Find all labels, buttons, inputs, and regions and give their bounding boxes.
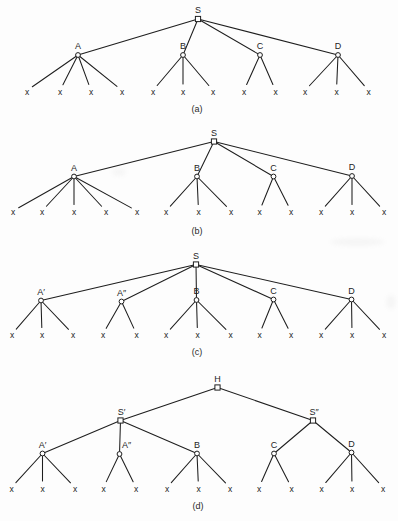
panel-caption-a: (a) [192,104,203,114]
leaf-edge-d-C [274,454,289,482]
node-label-d-H: H [214,374,221,384]
leaf-x-mark: x [164,207,169,217]
leaf-x-mark: x [73,484,78,494]
leaf-x-mark: x [10,330,15,340]
leaf-x-mark: x [228,330,233,340]
edge-c-S-C [196,265,274,300]
leaf-x-mark: x [134,484,139,494]
node-d-B-circle-marker [195,451,200,456]
node-d-C-circle-marker [272,451,277,456]
leaf-edge-a-C [247,55,260,85]
leaf-edge-d-App [106,454,119,482]
node-d-Sp-square-marker [118,418,123,423]
node-label-b-A: A [71,163,77,173]
node-label-a-S: S [195,5,201,15]
leaf-edge-c-C [262,300,274,328]
leaf-x-mark: x [195,330,200,340]
node-a-B-circle-marker [181,53,186,58]
node-label-d-Spp: S″ [309,407,319,417]
leaf-edge-c-Ap [16,301,41,330]
node-label-d-D: D [348,439,355,449]
leaf-x-mark: x [40,207,45,217]
leaf-x-mark: x [289,484,294,494]
panel-b: xxxxxxxxxxxxxSABCD(b) [11,128,387,236]
node-c-B-circle-marker [194,298,199,303]
leaf-edge-a-A [32,55,78,87]
node-d-Spp-square-marker [310,418,315,423]
leaf-edge-a-A [63,55,78,85]
node-label-d-C: C [271,440,278,450]
leaf-x-mark: x [319,484,324,494]
leaf-x-mark: x [382,330,387,340]
leaf-edge-a-B [157,55,183,86]
edge-d-H-Spp [218,388,314,421]
panel-a: xxxxxxxxxxxxSABCD(a) [25,5,372,114]
edge-d-H-Sp [121,388,218,421]
leaf-edge-c-B [170,300,196,329]
leaf-edge-a-D [338,55,364,86]
leaf-edge-c-B [197,300,198,328]
node-b-D-circle-marker [350,174,355,179]
leaf-edge-c-B [197,300,226,329]
panel-d: xxxxxxxxxxxxxHS′S″A′A″BCD(d) [9,374,386,512]
leaf-x-mark: x [382,207,387,217]
leaf-x-mark: x [11,207,16,217]
leaf-x-mark: x [151,87,156,97]
leaf-x-mark: x [181,87,186,97]
leaf-edge-d-Ap [43,454,71,483]
node-b-C-circle-marker [271,174,276,179]
node-b-S-square-marker [211,139,216,144]
leaf-x-mark: x [211,87,216,97]
leaf-x-mark: x [242,87,247,97]
leaf-edge-b-A [74,177,102,207]
leaf-edge-b-C [262,177,274,205]
node-label-c-App: A″ [117,288,127,298]
leaf-edge-d-D [326,453,352,483]
leaf-x-mark: x [303,87,308,97]
leaf-x-mark: x [72,207,77,217]
node-label-a-A: A [75,41,81,51]
leaf-edge-b-A [19,177,74,208]
leaf-x-mark: x [40,484,45,494]
edge-b-S-D [214,142,352,177]
leaf-x-mark: x [366,87,371,97]
edge-c-S-App [122,265,197,302]
leaf-x-mark: x [89,87,94,97]
node-label-a-C: C [257,41,264,51]
leaf-x-mark: x [257,207,262,217]
leaf-x-mark: x [257,330,262,340]
leaf-x-mark: x [381,484,386,494]
leaf-x-mark: x [350,330,355,340]
node-c-Ap-circle-marker [39,298,44,303]
node-label-c-B: B [193,286,199,296]
node-label-d-B: B [194,440,200,450]
leaf-x-mark: x [165,484,170,494]
scanned-figure-page: xxxxxxxxxxxxSABCD(a)xxxxxxxxxxxxxSABCD(b… [0,0,398,521]
leaf-x-mark: x [164,330,169,340]
leaf-edge-d-B [197,454,225,483]
leaf-edge-b-D [352,176,380,206]
leaf-x-mark: x [319,207,324,217]
leaf-x-mark: x [9,484,14,494]
node-b-A-circle-marker [72,174,77,179]
node-label-b-B: B [194,163,200,173]
leaf-x-mark: x [71,330,76,340]
node-label-d-Ap: A′ [39,440,47,450]
leaf-x-mark: x [350,207,355,217]
leaf-edge-c-Ap [41,301,69,330]
leaf-edge-c-App [122,302,134,329]
node-label-c-C: C [270,286,277,296]
node-label-b-C: C [270,163,277,173]
leaf-edge-a-D [337,55,338,84]
leaf-edge-b-B [197,177,226,207]
node-a-C-circle-marker [258,53,263,58]
leaf-edge-d-C [262,454,274,482]
leaf-edge-d-App [120,454,134,482]
node-label-c-D: D [348,286,355,296]
leaf-edge-d-B [171,454,197,483]
leaf-x-mark: x [319,330,324,340]
node-label-b-S: S [211,128,217,138]
edge-d-Sp-B [121,421,198,454]
leaf-x-mark: x [334,87,339,97]
node-d-H-square-marker [215,385,220,390]
